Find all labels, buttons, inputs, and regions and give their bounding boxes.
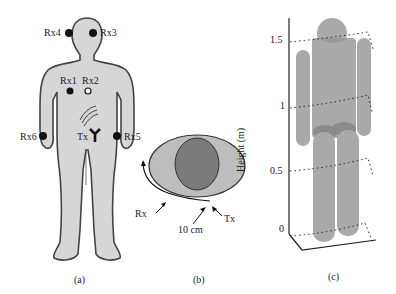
tx-label: Tx [77,132,88,142]
caption-c: (c) [328,272,339,282]
tick-0-5: 0.5 [270,166,283,176]
rx6-sensor [39,132,47,140]
rx3-sensor [89,29,97,37]
rx5-sensor [113,132,121,140]
diagram-canvas [0,0,396,294]
rx1-label: Rx1 [60,76,77,86]
y-axis-label: Height (m) [236,128,246,172]
rx5-label: Rx5 [124,132,141,142]
rx1-sensor [67,88,74,95]
rx4-sensor [65,29,73,37]
tick-1-5: 1.5 [270,35,283,45]
rx6-label: Rx6 [20,132,37,142]
tick-0: 0 [279,224,284,234]
distance-label: 10 cm [178,225,203,235]
rx2-sensor [85,88,91,94]
rx3-label: Rx3 [100,28,117,38]
rx-label: Rx [135,209,147,219]
cylinder-body-model [296,18,371,242]
caption-a: (a) [74,275,85,285]
caption-b: (b) [193,275,205,285]
torso-cross-section [141,135,245,224]
tick-1: 1 [280,101,285,111]
tx-label-b: Tx [224,214,235,224]
rx2-label: Rx2 [82,76,99,86]
rx4-label: Rx4 [44,28,61,38]
